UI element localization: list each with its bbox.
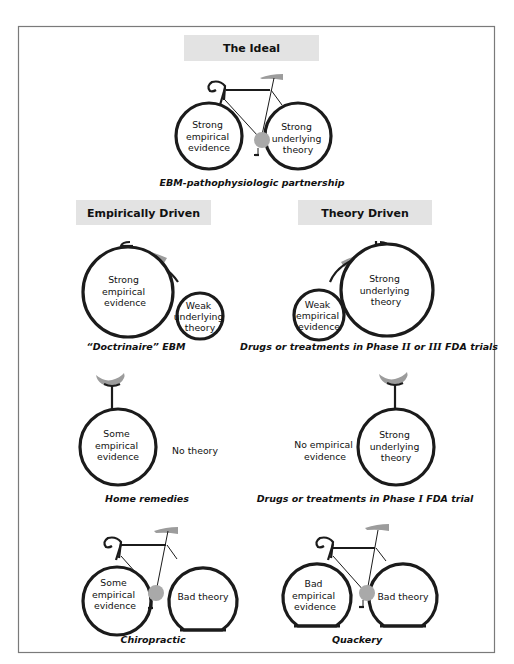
saddle-icon [154, 527, 178, 534]
bicycle-chiropractic: Some empirical evidence Bad theory [83, 527, 237, 635]
saddle-icon [260, 74, 283, 80]
section-empirically-driven: Empirically Driven Strong empirical evid… [76, 200, 226, 352]
label-no-theory: No theory [172, 445, 218, 456]
section-ideal: The Ideal Strong empirical evi [160, 35, 345, 188]
unicycle-home-remedies: Some empirical evidence [80, 373, 156, 485]
wheel-text-empirical: Strong empirical evidence [186, 119, 232, 153]
saddle-icon [365, 524, 389, 531]
caption-phase-one: Drugs or treatments in Phase I FDA trial [257, 493, 474, 504]
penny-farthing-theory: Strong underlying theory Weak empirical … [294, 241, 433, 340]
bicycle-quackery: Bad empirical evidence Bad theory [283, 524, 437, 626]
unicycle-phase-one: Strong underlying theory [358, 372, 434, 485]
section-phase-one: No empirical evidence Strong underlying … [257, 372, 474, 504]
label-no-empirical-evidence: No empirical evidence [294, 439, 356, 462]
section-home-remedies: Some empirical evidence No theory Home r… [80, 373, 218, 504]
header-ideal: The Ideal [223, 42, 280, 55]
caption-chiropractic: Chiropractic [120, 634, 186, 645]
header-empirically-driven: Empirically Driven [87, 207, 200, 220]
wheel-text-bad-theory-chiro: Bad theory [177, 591, 229, 602]
caption-ideal: EBM-pathophysiologic partnership [160, 177, 345, 188]
caption-home-remedies: Home remedies [105, 493, 189, 504]
caption-quackery: Quackery [332, 634, 383, 645]
saddle-icon [379, 372, 408, 385]
wheel-text-bad-theory-quackery: Bad theory [377, 591, 429, 602]
caption-empirically-driven: “Doctrinaire” EBM [87, 341, 186, 352]
saddle-icon [96, 373, 125, 386]
crank-icon [359, 585, 375, 601]
crank-icon [254, 132, 270, 148]
section-chiropractic: Some empirical evidence Bad theory Chiro… [83, 527, 237, 645]
penny-farthing-empirical: Strong empirical evidence Weak underlyin… [83, 242, 226, 339]
crank-icon [148, 585, 164, 601]
bicycle-ideal: Strong empirical evidence Strong underly… [176, 74, 331, 169]
bicycle-evidence-diagram: The Ideal Strong empirical evi [0, 0, 514, 664]
wheel-text-strong-empirical: Strong empirical evidence [102, 274, 148, 308]
section-quackery: Bad empirical evidence Bad theory Quacke… [283, 524, 437, 645]
figure-border [19, 27, 495, 653]
caption-theory-driven: Drugs or treatments in Phase II or III F… [240, 341, 498, 352]
section-theory-driven: Theory Driven Strong underlying theory W… [240, 200, 498, 352]
header-theory-driven: Theory Driven [321, 207, 409, 220]
